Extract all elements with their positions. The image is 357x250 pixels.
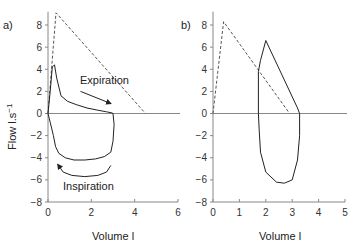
y-tick-label: −4: [196, 152, 208, 163]
y-tick-label: 2: [36, 86, 42, 97]
x-tick-label: 4: [316, 207, 322, 218]
expiration-annotation: Expiration: [80, 74, 129, 86]
panel-b-label: b): [181, 19, 191, 31]
inspiration-arrow-line: [58, 164, 111, 176]
y-tick-label: 6: [201, 42, 207, 53]
x-tick-label: 0: [210, 207, 216, 218]
y-tick-label: 4: [36, 64, 42, 75]
y-tick-label: 0: [36, 108, 42, 119]
y-tick-label: −4: [31, 152, 43, 163]
panel-a-label: a): [3, 19, 13, 31]
x-axis-label-a: Volume l: [92, 230, 134, 242]
x-tick-label: 6: [175, 207, 181, 218]
inspiration-annotation: Inspiration: [63, 180, 114, 192]
x-tick-label: 4: [132, 207, 138, 218]
y-tick-label: −8: [31, 197, 43, 208]
y-tick-label: −6: [31, 174, 43, 185]
y-tick-label: −2: [196, 130, 208, 141]
x-tick-label: 0: [45, 207, 51, 218]
expiration-arrow-line: [81, 91, 111, 103]
loop-line: [258, 41, 299, 184]
y-tick-label: 8: [36, 20, 42, 31]
flow-volume-figure: 86420−2−4−6−80246 86420−2−4−6−8012345 a)…: [0, 0, 357, 250]
panel-b: 86420−2−4−6−8012345: [196, 12, 349, 218]
y-tick-label: 6: [36, 42, 42, 53]
y-tick-label: 2: [201, 86, 207, 97]
y-tick-label: 0: [201, 108, 207, 119]
x-axis-label-b: Volume l: [259, 230, 301, 242]
y-tick-label: −8: [196, 197, 208, 208]
y-axis-label: Flow l.s−1: [5, 103, 18, 150]
y-tick-label: 8: [201, 20, 207, 31]
y-tick-label: 4: [201, 64, 207, 75]
y-tick-label: −2: [31, 130, 43, 141]
x-tick-label: 5: [342, 207, 348, 218]
x-tick-label: 1: [237, 207, 243, 218]
x-tick-label: 2: [89, 207, 95, 218]
y-tick-label: −6: [196, 174, 208, 185]
x-tick-label: 3: [289, 207, 295, 218]
x-tick-label: 2: [263, 207, 269, 218]
